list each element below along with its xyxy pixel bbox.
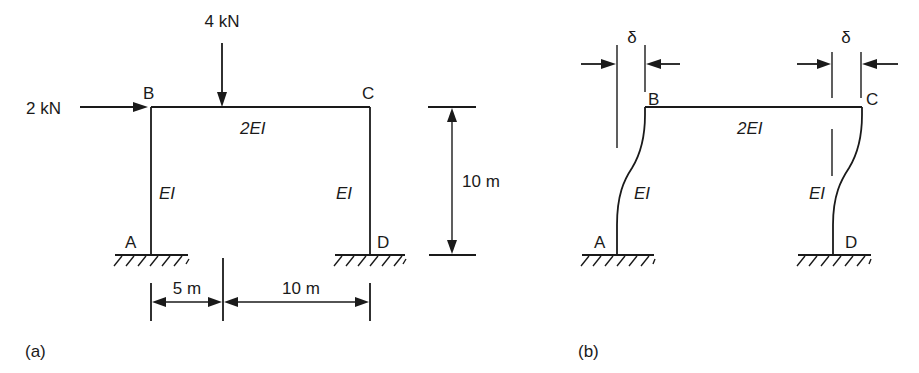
node-b-label: B	[143, 84, 154, 103]
node-a-label: A	[125, 233, 137, 252]
sway-delta-left-label: δ	[627, 28, 636, 47]
frame-diagram: 4 kN 2 kN B C A D 2EI EI EI 10 m	[0, 0, 919, 373]
beam-stiffness-label: 2EI	[736, 119, 763, 138]
node-a-label: A	[594, 233, 606, 252]
fixed-support-a-icon	[581, 255, 655, 266]
column-dc-stiffness-label: EI	[809, 184, 825, 203]
beam-stiffness-label: 2EI	[239, 119, 266, 138]
column-dc-stiffness-label: EI	[336, 184, 352, 203]
sway-delta-right-label: δ	[841, 28, 850, 47]
span-right-label: 10 m	[282, 279, 320, 298]
node-d-label: D	[845, 233, 857, 252]
caption-a: (a)	[25, 342, 46, 361]
panel-a: 4 kN 2 kN B C A D 2EI EI EI 10 m	[25, 12, 500, 361]
column-ab-stiffness-label: EI	[159, 184, 175, 203]
fixed-support-d-icon	[334, 255, 406, 266]
height-dimension-label: 10 m	[462, 172, 500, 191]
column-ab-stiffness-label: EI	[634, 184, 650, 203]
node-d-label: D	[377, 233, 389, 252]
load-4kn-arrow-icon	[217, 43, 227, 107]
node-b-label: B	[648, 90, 659, 109]
sway-delta-left-arrows-icon	[581, 59, 680, 69]
sway-delta-right-arrows-icon	[797, 59, 898, 69]
load-2kn-arrow-icon	[80, 102, 148, 112]
caption-b: (b)	[578, 342, 599, 361]
node-c-label: C	[866, 90, 878, 109]
deflected-column-ab	[617, 107, 645, 255]
load-2kn-label: 2 kN	[26, 99, 61, 118]
node-c-label: C	[362, 84, 374, 103]
fixed-support-d-icon	[797, 255, 871, 266]
panel-b: δ δ B C A D 2EI EI EI (b)	[578, 28, 898, 361]
load-4kn-label: 4 kN	[205, 12, 240, 31]
span-left-label: 5 m	[173, 279, 201, 298]
fixed-support-a-icon	[114, 255, 189, 266]
